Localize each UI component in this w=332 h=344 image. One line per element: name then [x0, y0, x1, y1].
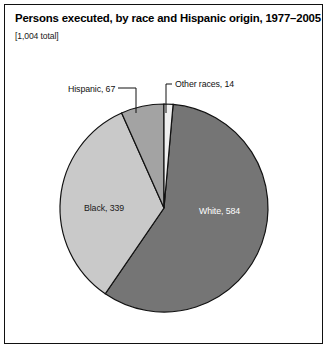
- pie-callout-label-other-races: Other races, 14: [175, 79, 234, 89]
- pie-label-white: White, 584: [199, 206, 240, 216]
- pie-label-black: Black, 339: [84, 203, 124, 213]
- pie-callout-label-hispanic: Hispanic, 67: [68, 84, 115, 94]
